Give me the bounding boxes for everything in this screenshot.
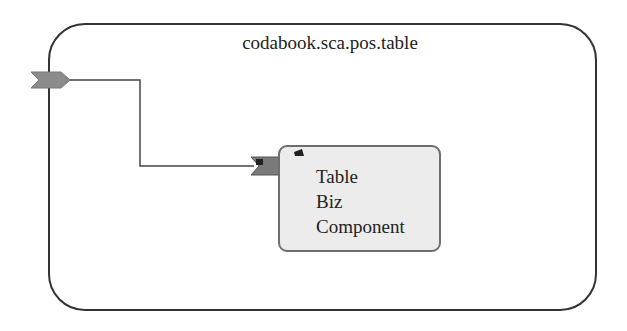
component-label-line: Component — [316, 214, 405, 239]
component-label-line: Table — [316, 164, 405, 189]
implementation-marker-icon — [293, 149, 305, 157]
wire-connection[interactable] — [68, 80, 254, 166]
component-label-line: Biz — [316, 189, 405, 214]
composite-diagram: codabook.sca.pos.table Table Biz Compone… — [0, 0, 627, 331]
component-label: Table Biz Component — [316, 164, 405, 239]
promoted-service-chevron-icon[interactable] — [31, 72, 70, 88]
service-binding-marker-icon — [256, 159, 263, 165]
component-table-biz[interactable]: Table Biz Component — [278, 145, 441, 252]
composite-title: codabook.sca.pos.table — [180, 32, 480, 54]
